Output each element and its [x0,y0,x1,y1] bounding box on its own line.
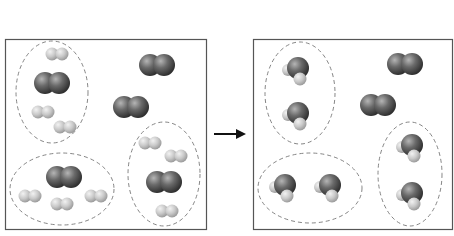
hydrogen-atom [61,198,74,211]
oxygen-atom [153,54,175,76]
oxygen-atom [374,94,396,116]
molecule-o2 [139,54,175,76]
molecule-o2 [34,72,70,94]
molecule-o2 [146,171,182,193]
hydrogen-atom [294,73,307,86]
oxygen-atom [60,166,82,188]
oxygen-atom [401,53,423,75]
hydrogen-atom [64,121,77,134]
hydrogen-atom [294,118,307,131]
hydrogen-atom [281,190,294,203]
hydrogen-atom [166,205,179,218]
molecule-o2 [46,166,82,188]
hydrogen-atom [95,190,108,203]
molecule-o2 [360,94,396,116]
hydrogen-atom [326,190,339,203]
hydrogen-atom [42,106,55,119]
oxygen-atom [160,171,182,193]
hydrogen-atom [175,150,188,163]
oxygen-atom [48,72,70,94]
reaction-arrow [214,129,246,139]
molecule-o2 [387,53,423,75]
oxygen-atom [127,96,149,118]
hydrogen-atom [56,48,69,61]
arrow-head-icon [236,129,246,139]
hydrogen-atom [29,190,42,203]
hydrogen-atom [408,150,421,163]
molecule-o2 [113,96,149,118]
reaction-diagram [0,0,454,236]
hydrogen-atom [149,137,162,150]
hydrogen-atom [408,198,421,211]
